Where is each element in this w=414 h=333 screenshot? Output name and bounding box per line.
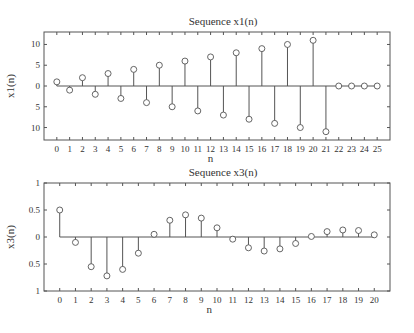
stem-marker (340, 227, 346, 233)
y-axis-label: x3(n) (4, 225, 17, 249)
x-tick-label: 10 (213, 295, 223, 305)
x-tick-label: 13 (260, 295, 270, 305)
x-tick-label: 18 (283, 144, 293, 154)
stem-marker (310, 37, 316, 43)
x-tick-label: 3 (93, 144, 98, 154)
x-tick-label: 16 (307, 295, 317, 305)
x-tick-label: 18 (338, 295, 348, 305)
stem-marker (284, 41, 290, 47)
stem-marker (169, 104, 175, 110)
x-tick-label: 19 (296, 144, 306, 154)
x-tick-label: 14 (275, 295, 285, 305)
stem-marker (214, 225, 220, 231)
stem-marker (245, 245, 251, 251)
x-tick-label: 7 (144, 144, 149, 154)
stem-marker (261, 248, 267, 254)
x-tick-label: 20 (370, 295, 380, 305)
stem-marker (131, 66, 137, 72)
x-tick-label: 11 (228, 295, 237, 305)
chart-title: Sequence x3(n) (189, 166, 258, 179)
stem-marker (105, 71, 111, 77)
stem-marker (118, 95, 124, 101)
stem-marker (183, 212, 189, 218)
y-tick-label: 5 (36, 60, 41, 70)
plot-area: 0123456789101112131415161718192010.500.5… (29, 178, 390, 305)
y-tick-label: 1 (36, 286, 41, 296)
x-tick-label: 2 (89, 295, 94, 305)
y-tick-label: 0 (36, 81, 41, 91)
x-tick-label: 5 (136, 295, 141, 305)
x-tick-label: 20 (309, 144, 319, 154)
stem-marker (308, 233, 314, 239)
chart-x3: Sequence x3(n) n x3(n) 01234567891011121… (4, 166, 390, 315)
x-tick-label: 21 (321, 144, 330, 154)
stem-marker (349, 83, 355, 89)
x-tick-label: 6 (131, 144, 136, 154)
x-tick-label: 9 (170, 144, 175, 154)
y-tick-label: 5 (36, 102, 41, 112)
x-tick-label: 17 (323, 295, 333, 305)
stem-marker (54, 79, 60, 85)
stem-marker (356, 228, 362, 234)
stem-marker (220, 112, 226, 118)
x-tick-label: 0 (57, 295, 62, 305)
stem-marker (233, 50, 239, 56)
x-tick-label: 17 (270, 144, 280, 154)
stem-marker (374, 83, 380, 89)
stem-marker (277, 246, 283, 252)
x-tick-label: 15 (291, 295, 301, 305)
stem-marker (336, 83, 342, 89)
stem-marker (371, 232, 377, 238)
stem-marker (88, 264, 94, 270)
y-tick-label: 0.5 (29, 259, 41, 269)
x-tick-label: 11 (193, 144, 202, 154)
x-tick-label: 13 (219, 144, 229, 154)
stem-marker (144, 100, 150, 106)
x-tick-label: 14 (232, 144, 242, 154)
stem-marker (361, 83, 367, 89)
stem-marker (230, 236, 236, 242)
stem-marker (120, 266, 126, 272)
stem-marker (135, 250, 141, 256)
x-tick-label: 1 (73, 295, 78, 305)
plot-area: 0123456789101112131415161718192021222324… (31, 32, 390, 154)
x-tick-label: 19 (354, 295, 364, 305)
x-tick-label: 15 (245, 144, 255, 154)
stem-marker (297, 125, 303, 131)
x-tick-label: 9 (199, 295, 204, 305)
x-tick-label: 6 (152, 295, 157, 305)
stem-marker (67, 87, 73, 93)
x-tick-label: 25 (373, 144, 383, 154)
x-tick-label: 16 (257, 144, 267, 154)
stem-marker (195, 108, 201, 114)
x-tick-label: 12 (206, 144, 215, 154)
x-axis-label: n (206, 303, 212, 315)
x-tick-label: 8 (157, 144, 162, 154)
stem-marker (246, 116, 252, 122)
x-tick-label: 12 (244, 295, 253, 305)
y-tick-label: 10 (31, 123, 41, 133)
stem-marker (198, 215, 204, 221)
chart-title: Sequence x1(n) (189, 15, 258, 28)
x-tick-label: 23 (347, 144, 357, 154)
stem-marker (167, 217, 173, 223)
figure: Sequence x1(n) n x1(n) 01234567891011121… (0, 0, 414, 333)
y-tick-label: 1 (36, 178, 41, 188)
x-tick-label: 24 (360, 144, 370, 154)
stem-marker (57, 207, 63, 213)
stem-marker (79, 75, 85, 81)
x-tick-label: 3 (105, 295, 110, 305)
x-tick-label: 4 (106, 144, 111, 154)
x-tick-label: 8 (183, 295, 188, 305)
stem-marker (259, 46, 265, 52)
stem-marker (156, 62, 162, 68)
y-tick-label: 10 (31, 39, 41, 49)
y-axis-label: x1(n) (4, 74, 17, 98)
x-tick-label: 5 (119, 144, 124, 154)
x-tick-label: 0 (55, 144, 60, 154)
y-tick-label: 0.5 (29, 205, 41, 215)
x-tick-label: 7 (168, 295, 173, 305)
x-tick-label: 4 (120, 295, 125, 305)
x-tick-label: 10 (180, 144, 190, 154)
stem-marker (151, 231, 157, 237)
